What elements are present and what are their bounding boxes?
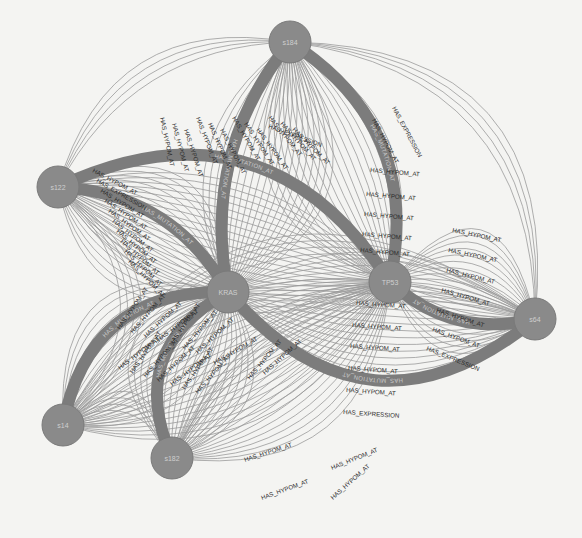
node-label: TP53 — [382, 279, 399, 286]
node-s184[interactable]: s184 — [269, 21, 311, 63]
edge-label: HAS_HYPOM_AT — [330, 446, 379, 471]
node-s14[interactable]: s14 — [42, 404, 84, 446]
node-s122[interactable]: s122 — [37, 166, 79, 208]
node-kras[interactable]: KRAS — [207, 271, 249, 313]
edge-label: HAS_EXPRESSION — [343, 408, 400, 419]
node-label: s184 — [282, 39, 297, 46]
node-label: KRAS — [218, 289, 237, 296]
edge-label: HAS_HYPOM_AT — [260, 477, 309, 501]
node-s64[interactable]: s64 — [514, 298, 556, 340]
edge-label: HAS_HYPOM_AT — [364, 210, 414, 221]
node-tp53[interactable]: TP53 — [369, 261, 411, 303]
node-label: s122 — [50, 184, 65, 191]
node-label: s14 — [57, 422, 68, 429]
node-label: s64 — [529, 316, 540, 323]
node-s182[interactable]: s182 — [151, 437, 193, 479]
edge-labels-layer: HAS_EXPRESSIONHAS_EXPRESSIONHAS_HYPOM_AT… — [92, 105, 503, 501]
node-label: s182 — [164, 455, 179, 462]
edge-label: HAS_HYPOM_AT — [346, 386, 396, 396]
graph-canvas[interactable]: HAS_MUTATION_ATHAS_MUTATION_ATHAS_MUTATI… — [0, 0, 582, 538]
